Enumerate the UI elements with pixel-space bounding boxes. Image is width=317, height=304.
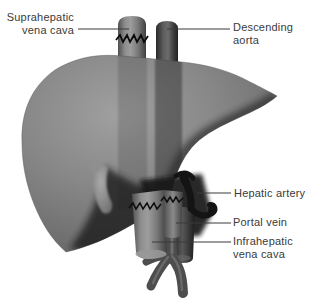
liver-vessels-diagram: Suprahepatic vena cava Descending aorta … — [0, 0, 317, 304]
label-suprahepatic-vena-cava: Suprahepatic vena cava — [7, 11, 74, 36]
label-portal-vein: Portal vein — [233, 216, 287, 229]
label-descending-aorta-line1: Descending — [233, 21, 293, 34]
label-infrahepatic-line2: vena cava — [233, 248, 293, 261]
label-suprahepatic-line1: Suprahepatic — [7, 11, 74, 24]
label-descending-aorta: Descending aorta — [233, 21, 293, 46]
label-hepatic-artery: Hepatic artery — [234, 187, 305, 200]
label-descending-aorta-line2: aorta — [233, 34, 293, 47]
gallbladder-knob — [90, 160, 102, 172]
label-infrahepatic-line1: Infrahepatic — [233, 235, 293, 248]
label-infrahepatic-vena-cava: Infrahepatic vena cava — [233, 235, 293, 260]
infrahepatic-vena-cava-cut-end — [136, 250, 167, 259]
label-suprahepatic-line2: vena cava — [7, 24, 74, 37]
